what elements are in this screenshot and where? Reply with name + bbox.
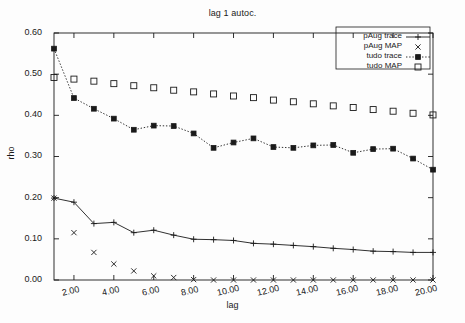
data-point bbox=[350, 247, 356, 253]
data-point bbox=[131, 127, 136, 132]
axes-frame bbox=[54, 33, 433, 280]
data-point bbox=[171, 124, 176, 129]
data-point bbox=[370, 248, 376, 254]
data-point bbox=[191, 236, 197, 242]
legend-marker-sample bbox=[416, 55, 421, 60]
data-point bbox=[290, 242, 296, 248]
series-paug-map bbox=[51, 195, 435, 282]
series-tudo-trace bbox=[52, 46, 436, 172]
data-point bbox=[171, 232, 177, 238]
legend-marker-sample bbox=[415, 44, 420, 49]
data-point bbox=[410, 110, 416, 116]
data-point bbox=[211, 145, 216, 150]
data-point bbox=[231, 237, 237, 243]
data-point bbox=[350, 105, 356, 111]
data-point bbox=[111, 219, 117, 225]
legend-marker-sample bbox=[415, 34, 421, 40]
data-point bbox=[311, 143, 316, 148]
data-point bbox=[71, 76, 77, 82]
data-point bbox=[310, 101, 316, 107]
data-point bbox=[151, 123, 156, 128]
chart-figure: lag 1 autoc. rho lag 0.60 0.50 0.40 0.30… bbox=[0, 0, 465, 323]
data-point bbox=[270, 241, 276, 247]
data-point bbox=[171, 275, 176, 280]
data-point bbox=[330, 103, 336, 109]
data-point bbox=[410, 249, 416, 255]
data-point bbox=[211, 237, 217, 243]
data-point bbox=[430, 249, 436, 255]
plot-canvas bbox=[0, 0, 465, 323]
data-point bbox=[371, 147, 376, 152]
data-point bbox=[251, 136, 256, 141]
data-point bbox=[250, 95, 256, 101]
data-point bbox=[331, 143, 336, 148]
data-point bbox=[91, 78, 97, 84]
data-point bbox=[231, 140, 236, 145]
data-point bbox=[351, 150, 356, 155]
data-point bbox=[151, 85, 157, 91]
series-tudo-map bbox=[51, 74, 436, 117]
data-point bbox=[370, 107, 376, 113]
data-point bbox=[191, 89, 197, 95]
data-point bbox=[291, 145, 296, 150]
data-point bbox=[431, 167, 436, 172]
data-point bbox=[111, 81, 117, 87]
data-point bbox=[111, 116, 116, 121]
data-point bbox=[310, 244, 316, 250]
data-point bbox=[211, 91, 217, 97]
data-point bbox=[270, 97, 276, 103]
series-line bbox=[54, 198, 433, 252]
data-point bbox=[71, 230, 76, 235]
data-series-layer bbox=[51, 46, 436, 282]
data-point bbox=[271, 145, 276, 150]
data-point bbox=[91, 106, 96, 111]
data-point bbox=[330, 245, 336, 251]
data-point bbox=[131, 230, 137, 236]
data-point bbox=[52, 46, 57, 51]
data-point bbox=[171, 87, 177, 93]
data-point bbox=[391, 146, 396, 151]
data-point bbox=[191, 131, 196, 136]
data-point bbox=[250, 240, 256, 246]
data-point bbox=[390, 249, 396, 255]
data-point bbox=[411, 156, 416, 161]
data-point bbox=[91, 250, 96, 255]
series-paug-trace bbox=[51, 195, 436, 255]
data-point bbox=[111, 261, 116, 266]
data-point bbox=[131, 83, 137, 89]
data-point bbox=[290, 99, 296, 105]
data-point bbox=[231, 93, 237, 99]
data-point bbox=[151, 227, 157, 233]
data-point bbox=[72, 96, 77, 101]
data-point bbox=[390, 108, 396, 114]
data-point bbox=[131, 268, 136, 273]
